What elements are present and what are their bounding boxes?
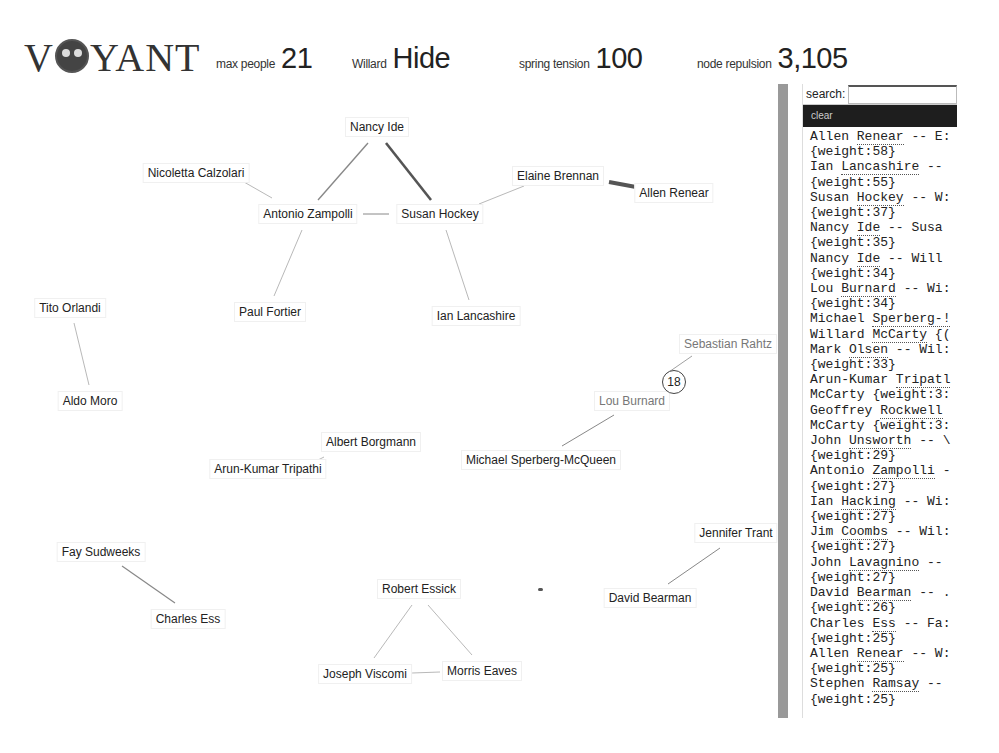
edge-list-panel: search: clear Allen Renear -- E:{weight:…	[802, 84, 957, 718]
edge-list-item[interactable]: Arun-Kumar Tripatl	[810, 372, 957, 387]
spring-tension-value[interactable]: 100	[596, 42, 643, 75]
willard-hide-toggle[interactable]: Hide	[393, 42, 451, 75]
edge-list-item[interactable]: Antonio Zampolli -	[810, 463, 957, 478]
entry-last-name-link[interactable]: Zampolli	[872, 463, 934, 479]
graph-node-arun[interactable]: Arun-Kumar Tripathi	[209, 459, 326, 479]
entry-last-name-link[interactable]: Ramsay	[872, 676, 919, 692]
panel-splitter[interactable]	[778, 84, 788, 718]
entry-rest: -- Wi:	[896, 494, 951, 509]
edge-list-item[interactable]: Willard McCarty {(	[810, 327, 957, 342]
entry-rest: -- .	[911, 585, 950, 600]
entry-first-name: Nancy	[810, 251, 857, 266]
entry-weight: McCarty {weight:3:	[810, 418, 957, 433]
entry-last-name-link[interactable]: Burnard	[841, 281, 896, 297]
entry-last-name-link[interactable]: Ide	[857, 251, 880, 267]
entry-last-name-link[interactable]: Tripatl	[896, 372, 951, 388]
voyant-logo: VYANT	[24, 38, 201, 78]
entry-last-name-link[interactable]: Coombs	[841, 524, 888, 540]
entry-weight: {weight:25}	[810, 631, 957, 646]
edge-list-item[interactable]: Lou Burnard -- Wi:	[810, 281, 957, 296]
entry-last-name-link[interactable]: Bearman	[857, 585, 912, 601]
entry-last-name-link[interactable]: Renear	[857, 129, 904, 145]
entry-first-name: Susan	[810, 190, 857, 205]
graph-node-susan[interactable]: Susan Hockey	[396, 204, 483, 224]
entry-last-name-link[interactable]: Unsworth	[849, 433, 911, 449]
entry-first-name: Stephen	[810, 676, 872, 691]
entry-weight: {weight:27}	[810, 509, 957, 524]
spring-tension-control[interactable]: spring tension 100	[519, 42, 642, 75]
node-repulsion-value[interactable]: 3,105	[778, 42, 848, 75]
search-input[interactable]	[848, 85, 957, 104]
entry-rest: --	[919, 555, 942, 570]
entry-last-name-link[interactable]: Hacking	[841, 494, 896, 510]
edge-list-item[interactable]: Stephen Ramsay --	[810, 676, 957, 691]
entry-weight: {weight:29}	[810, 448, 957, 463]
max-people-control[interactable]: max people 21	[216, 42, 312, 75]
graph-node-nancy[interactable]: Nancy Ide	[345, 117, 409, 137]
entry-first-name: Michael	[810, 311, 872, 326]
entry-last-name-link[interactable]: Renear	[857, 646, 904, 662]
edge-list-item[interactable]: Michael Sperberg-!	[810, 311, 957, 326]
edge-list-item[interactable]: Allen Renear -- W:	[810, 646, 957, 661]
entry-first-name: Willard	[810, 327, 872, 342]
graph-node-albert[interactable]: Albert Borgmann	[321, 432, 421, 452]
graph-node-fay[interactable]: Fay Sudweeks	[57, 542, 146, 562]
entry-last-name-link[interactable]: Lancashire	[841, 159, 919, 175]
edge-list-item[interactable]: John Lavagnino --	[810, 555, 957, 570]
graph-node-antonio[interactable]: Antonio Zampolli	[258, 204, 357, 224]
edge-list[interactable]: Allen Renear -- E:{weight:58}Ian Lancash…	[803, 127, 957, 707]
graph-node-joseph[interactable]: Joseph Viscomi	[318, 664, 412, 684]
graph-node-nicoletta[interactable]: Nicoletta Calzolari	[143, 163, 250, 183]
graph-node-charles[interactable]: Charles Ess	[151, 609, 226, 629]
edge-list-item[interactable]: Ian Lancashire --	[810, 159, 957, 174]
entry-last-name-link[interactable]: Lavagnino	[849, 555, 919, 571]
graph-node-sebastian[interactable]: Sebastian Rahtz	[679, 334, 777, 354]
graph-node-jennifer[interactable]: Jennifer Trant	[694, 523, 777, 543]
entry-rest: {(	[927, 327, 950, 342]
edge-list-item[interactable]: Charles Ess -- Fa:	[810, 616, 957, 631]
edge-list-item[interactable]: Susan Hockey -- W:	[810, 190, 957, 205]
edge-list-item[interactable]: Jim Coombs -- Wil:	[810, 524, 957, 539]
graph-node-allen[interactable]: Allen Renear	[634, 183, 713, 203]
entry-weight: {weight:27}	[810, 539, 957, 554]
edge-list-item[interactable]: Nancy Ide -- Susa	[810, 220, 957, 235]
edge-list-item[interactable]: Ian Hacking -- Wi:	[810, 494, 957, 509]
node-repulsion-control[interactable]: node repulsion 3,105	[697, 42, 848, 75]
entry-first-name: Charles	[810, 616, 872, 631]
edge-list-item[interactable]: Allen Renear -- E:	[810, 129, 957, 144]
willard-toggle-control[interactable]: Willard Hide	[352, 42, 450, 75]
graph-edge	[668, 548, 720, 584]
graph-node-lou[interactable]: Lou Burnard	[594, 391, 670, 411]
edge-list-item[interactable]: John Unsworth -- \	[810, 433, 957, 448]
entry-last-name-link[interactable]: Ide	[857, 220, 880, 236]
edge-list-item[interactable]: David Bearman -- .	[810, 585, 957, 600]
graph-node-tito[interactable]: Tito Orlandi	[34, 298, 106, 318]
graph-node-michael[interactable]: Michael Sperberg-McQueen	[461, 450, 621, 470]
clear-button[interactable]: clear	[803, 105, 957, 127]
graph-edge	[74, 323, 89, 385]
graph-node-robert[interactable]: Robert Essick	[377, 579, 461, 599]
entry-weight: McCarty {weight:3:	[810, 387, 957, 402]
edge-list-item[interactable]: Nancy Ide -- Will	[810, 251, 957, 266]
entry-last-name-link[interactable]: Olsen	[849, 342, 888, 358]
max-people-value[interactable]: 21	[281, 42, 312, 75]
graph-node-paul[interactable]: Paul Fortier	[234, 302, 306, 322]
entry-last-name-link[interactable]: Rockwell	[880, 403, 942, 419]
entry-last-name-link[interactable]: Ess	[872, 616, 895, 632]
entry-first-name: Geoffrey	[810, 403, 880, 418]
graph-node-david[interactable]: David Bearman	[604, 588, 697, 608]
graph-node-morris[interactable]: Morris Eaves	[442, 661, 522, 681]
entry-weight: {weight:55}	[810, 175, 957, 190]
entry-last-name-link[interactable]: Hockey	[857, 190, 904, 206]
graph-node-aldo[interactable]: Aldo Moro	[58, 391, 123, 411]
entry-last-name-link[interactable]: Sperberg-!	[872, 311, 950, 327]
edge-list-item[interactable]: Geoffrey Rockwell	[810, 403, 957, 418]
entry-last-name-link[interactable]: McCarty	[872, 327, 927, 343]
edge-list-item[interactable]: Mark Olsen -- Wil:	[810, 342, 957, 357]
graph-node-elaine[interactable]: Elaine Brennan	[512, 166, 604, 186]
entry-weight: {weight:34}	[810, 296, 957, 311]
network-graph[interactable]: Nancy IdeNicoletta CalzolariAntonio Zamp…	[0, 84, 776, 744]
entry-first-name: David	[810, 585, 857, 600]
entry-first-name: Ian	[810, 494, 841, 509]
graph-node-ian[interactable]: Ian Lancashire	[432, 306, 521, 326]
